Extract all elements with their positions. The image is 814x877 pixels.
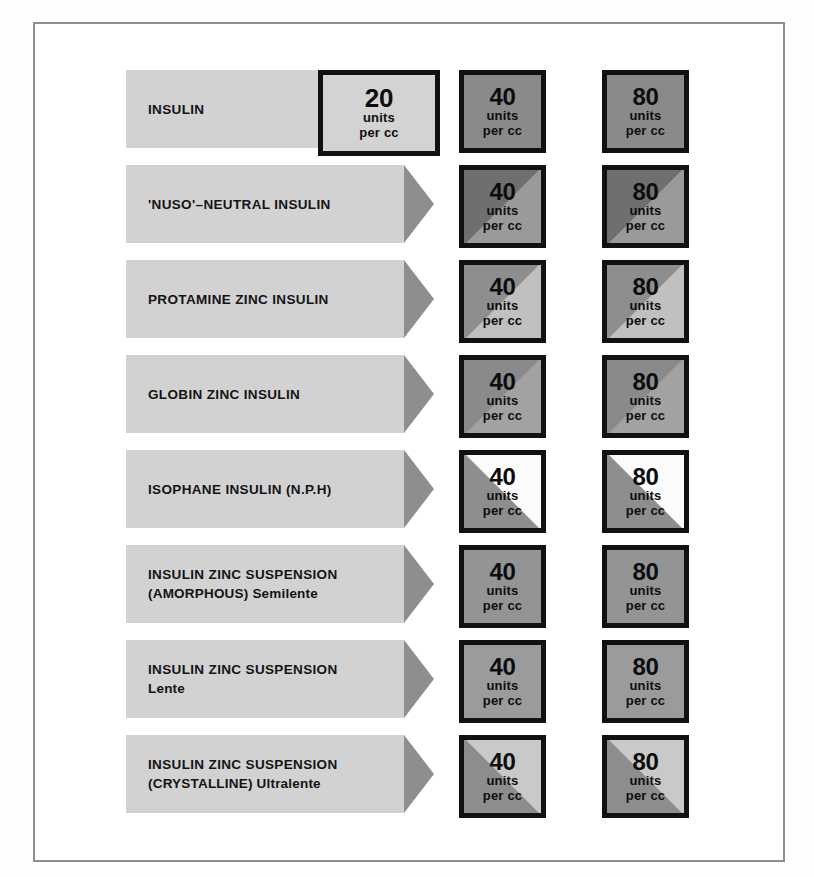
insulin-type-banner-nuso-neutral-insulin: 'NUSO'–NEUTRAL INSULIN: [126, 165, 434, 243]
arrow-head-icon: [404, 355, 434, 433]
chart-row: INSULIN ZINC SUSPENSION(CRYSTALLINE) Ult…: [126, 735, 689, 813]
insulin-type-label: INSULIN ZINC SUSPENSION(CRYSTALLINE) Ult…: [148, 735, 400, 813]
dose-units-line2: per cc: [483, 313, 523, 328]
dose-units-line1: units: [486, 678, 518, 693]
insulin-type-label: ISOPHANE INSULIN (N.P.H): [148, 450, 400, 528]
insulin-type-label-line1: PROTAMINE ZINC INSULIN: [148, 290, 329, 309]
insulin-strengths-chart: INSULIN20unitsper cc40unitsper cc80units…: [0, 0, 814, 877]
insulin-type-label-line1: INSULIN ZINC SUSPENSION: [148, 565, 338, 584]
dose-units-line2: per cc: [483, 123, 523, 138]
dose-value: 20: [365, 87, 393, 110]
dose-box-text: 40unitsper cc: [464, 455, 541, 528]
dose-box-text: 40unitsper cc: [464, 75, 541, 148]
dose-box-40-units: 40unitsper cc: [459, 450, 546, 533]
dose-box-40-units: 40unitsper cc: [459, 735, 546, 818]
insulin-type-banner-insulin-zinc-suspension-amorphous-semilente: INSULIN ZINC SUSPENSION(AMORPHOUS) Semil…: [126, 545, 434, 623]
dose-units-line1: units: [363, 110, 395, 125]
dose-units-line1: units: [629, 298, 661, 313]
insulin-type-label-line1: INSULIN ZINC SUSPENSION: [148, 660, 338, 679]
dose-box-text: 40unitsper cc: [464, 265, 541, 338]
insulin-type-label-line2: Lente: [148, 679, 185, 698]
dose-units-line1: units: [486, 298, 518, 313]
dose-value: 80: [632, 750, 658, 773]
dose-units-line2: per cc: [483, 788, 523, 803]
dose-units-line1: units: [629, 773, 661, 788]
dose-units-line1: units: [629, 108, 661, 123]
dose-units-line1: units: [486, 583, 518, 598]
chart-row: GLOBIN ZINC INSULIN40unitsper cc80unitsp…: [126, 355, 689, 433]
dose-box-40-units: 40unitsper cc: [459, 70, 546, 153]
dose-box-text: 40unitsper cc: [464, 740, 541, 813]
dose-box-text: 40unitsper cc: [464, 170, 541, 243]
dose-units-line1: units: [629, 488, 661, 503]
dose-units-line2: per cc: [626, 408, 666, 423]
chart-row: INSULIN ZINC SUSPENSION(AMORPHOUS) Semil…: [126, 545, 689, 623]
dose-box-text: 80unitsper cc: [607, 265, 684, 338]
dose-value: 40: [489, 370, 515, 393]
dose-units-line1: units: [486, 393, 518, 408]
dose-units-line1: units: [629, 203, 661, 218]
insulin-type-label: GLOBIN ZINC INSULIN: [148, 355, 400, 433]
dose-box-20-units: 20unitsper cc: [318, 70, 440, 156]
dose-box-80-units: 80unitsper cc: [602, 260, 689, 343]
dose-units-line2: per cc: [483, 408, 523, 423]
dose-value: 80: [632, 655, 658, 678]
insulin-type-label-line2: (CRYSTALLINE) Ultralente: [148, 774, 321, 793]
dose-box-text: 80unitsper cc: [607, 455, 684, 528]
arrow-head-icon: [404, 545, 434, 623]
insulin-type-label-line2: (AMORPHOUS) Semilente: [148, 584, 318, 603]
insulin-type-label-line1: ISOPHANE INSULIN (N.P.H): [148, 480, 332, 499]
dose-value: 40: [489, 560, 515, 583]
dose-box-80-units: 80unitsper cc: [602, 640, 689, 723]
dose-value: 80: [632, 465, 658, 488]
chart-row: ISOPHANE INSULIN (N.P.H)40unitsper cc80u…: [126, 450, 689, 528]
chart-row: 'NUSO'–NEUTRAL INSULIN40unitsper cc80uni…: [126, 165, 689, 243]
dose-box-80-units: 80unitsper cc: [602, 545, 689, 628]
dose-value: 40: [489, 180, 515, 203]
dose-value: 40: [489, 85, 515, 108]
dose-value: 80: [632, 560, 658, 583]
insulin-type-label: PROTAMINE ZINC INSULIN: [148, 260, 400, 338]
dose-units-line1: units: [629, 583, 661, 598]
dose-units-line2: per cc: [626, 218, 666, 233]
dose-box-80-units: 80unitsper cc: [602, 165, 689, 248]
arrow-head-icon: [404, 640, 434, 718]
dose-value: 80: [632, 85, 658, 108]
arrow-head-icon: [404, 450, 434, 528]
insulin-type-label-line1: INSULIN ZINC SUSPENSION: [148, 755, 338, 774]
dose-units-line2: per cc: [359, 125, 399, 140]
arrow-head-icon: [404, 260, 434, 338]
dose-box-text: 80unitsper cc: [607, 645, 684, 718]
dose-units-line2: per cc: [626, 693, 666, 708]
dose-units-line1: units: [629, 678, 661, 693]
dose-units-line1: units: [629, 393, 661, 408]
dose-value: 40: [489, 465, 515, 488]
dose-box-text: 40unitsper cc: [464, 645, 541, 718]
dose-box-40-units: 40unitsper cc: [459, 545, 546, 628]
insulin-type-label-line1: INSULIN: [148, 100, 204, 119]
dose-box-40-units: 40unitsper cc: [459, 165, 546, 248]
dose-box-80-units: 80unitsper cc: [602, 735, 689, 818]
dose-box-text: 20unitsper cc: [323, 75, 435, 151]
insulin-type-label: INSULIN ZINC SUSPENSION(AMORPHOUS) Semil…: [148, 545, 400, 623]
dose-units-line2: per cc: [483, 503, 523, 518]
dose-value: 40: [489, 750, 515, 773]
arrow-head-icon: [404, 165, 434, 243]
arrow-head-icon: [404, 735, 434, 813]
dose-box-40-units: 40unitsper cc: [459, 260, 546, 343]
dose-box-text: 40unitsper cc: [464, 550, 541, 623]
insulin-type-banner-globin-zinc-insulin: GLOBIN ZINC INSULIN: [126, 355, 434, 433]
dose-box-80-units: 80unitsper cc: [602, 70, 689, 153]
dose-box-80-units: 80unitsper cc: [602, 450, 689, 533]
dose-units-line2: per cc: [483, 693, 523, 708]
dose-units-line2: per cc: [626, 598, 666, 613]
dose-units-line1: units: [486, 773, 518, 788]
dose-value: 80: [632, 275, 658, 298]
insulin-type-label: INSULIN ZINC SUSPENSIONLente: [148, 640, 400, 718]
dose-units-line1: units: [486, 488, 518, 503]
dose-box-text: 40unitsper cc: [464, 360, 541, 433]
dose-units-line2: per cc: [626, 313, 666, 328]
insulin-type-banner-protamine-zinc-insulin: PROTAMINE ZINC INSULIN: [126, 260, 434, 338]
dose-units-line2: per cc: [483, 598, 523, 613]
insulin-type-label-line1: 'NUSO'–NEUTRAL INSULIN: [148, 195, 331, 214]
